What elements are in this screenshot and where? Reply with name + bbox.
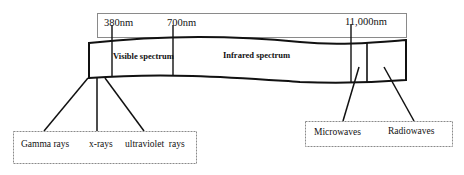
region-label-visible: Visible spectrum: [113, 52, 174, 61]
spectrum-diagram-graphics: [0, 0, 464, 175]
label-radiowaves: Radiowaves: [388, 127, 434, 137]
marker-label-11000nm: 11,000nm: [345, 17, 387, 28]
label-ultraviolet-rays: ultraviolet rays: [125, 140, 185, 150]
pointer-radiowaves: [384, 67, 414, 121]
label-gamma-rays: Gamma rays: [21, 140, 69, 150]
marker-label-380nm: 380nm: [104, 18, 133, 29]
label-x-rays: x-rays: [89, 140, 113, 150]
marker-label-700nm: 700nm: [167, 18, 196, 29]
region-label-infrared: Infrared spectrum: [223, 51, 290, 60]
label-microwaves: Microwaves: [314, 128, 361, 138]
pointer-ultraviolet: [105, 78, 144, 131]
pointer-gamma-rays: [44, 78, 88, 131]
